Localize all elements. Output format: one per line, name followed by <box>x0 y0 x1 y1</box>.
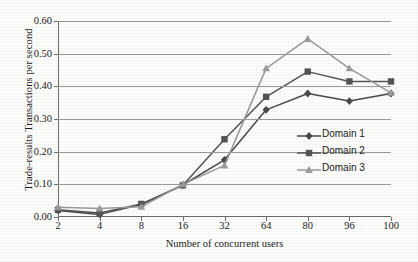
y-tick-label: 0.50 <box>14 49 52 59</box>
y-tick-label: 0.60 <box>14 16 52 26</box>
chart-legend: Domain 1Domain 2Domain 3 <box>296 126 365 177</box>
y-tick-mark <box>54 119 58 120</box>
y-tick-mark <box>54 152 58 153</box>
legend-marker-triangle-icon <box>296 162 322 174</box>
series-line <box>58 39 391 209</box>
legend-label: Domain 2 <box>322 145 365 156</box>
data-point-marker <box>305 132 312 140</box>
x-tick-label: 96 <box>344 220 355 231</box>
plot-area <box>58 21 391 217</box>
x-tick-label: 100 <box>383 220 399 231</box>
x-tick-label: 64 <box>261 220 272 231</box>
legend-label: Domain 1 <box>322 128 365 139</box>
y-tick-label: 0.40 <box>14 81 52 91</box>
x-tick-label: 16 <box>178 220 189 231</box>
x-axis-title: Number of concurrent users <box>58 238 391 249</box>
x-tick-label: 4 <box>97 220 102 231</box>
y-tick-mark <box>54 54 58 55</box>
data-point-marker <box>387 89 395 96</box>
data-point-marker <box>304 90 311 98</box>
legend-item-domain-2[interactable]: Domain 2 <box>296 143 365 158</box>
y-tick-label: 0.30 <box>14 114 52 124</box>
y-tick-mark <box>54 21 58 22</box>
data-point-marker <box>262 64 270 71</box>
legend-label: Domain 3 <box>322 162 365 173</box>
data-point-marker <box>221 161 229 168</box>
grid-line <box>58 54 391 55</box>
x-tick-label: 32 <box>219 220 230 231</box>
legend-item-domain-1[interactable]: Domain 1 <box>296 126 365 141</box>
y-axis-tick-labels: 0.000.100.200.300.400.500.60 <box>14 0 52 262</box>
y-tick-label: 0.10 <box>14 179 52 189</box>
chart-container: Trade-results Transactions per second 0.… <box>0 0 418 262</box>
x-axis-tick-labels: 2481632648096100 <box>58 220 391 236</box>
grid-line <box>58 21 391 22</box>
x-tick-label: 8 <box>139 220 144 231</box>
x-tick-label: 80 <box>303 220 314 231</box>
y-tick-label: 0.00 <box>14 212 52 222</box>
data-point-marker <box>221 136 227 142</box>
data-point-marker <box>263 94 269 100</box>
data-point-marker <box>346 78 352 84</box>
legend-marker-square-icon <box>296 145 322 157</box>
x-tick-label: 2 <box>55 220 60 231</box>
data-point-marker <box>345 64 353 71</box>
data-point-marker <box>306 149 312 155</box>
data-point-marker <box>346 97 353 105</box>
legend-item-domain-3[interactable]: Domain 3 <box>296 160 365 175</box>
y-tick-mark <box>54 184 58 185</box>
y-tick-mark <box>54 86 58 87</box>
grid-line <box>58 119 391 120</box>
y-tick-label: 0.20 <box>14 147 52 157</box>
data-point-marker <box>305 68 311 74</box>
grid-line <box>58 184 391 185</box>
data-point-marker <box>304 35 312 42</box>
legend-marker-diamond-icon <box>296 128 322 140</box>
data-point-marker <box>388 78 394 84</box>
grid-line <box>58 86 391 87</box>
